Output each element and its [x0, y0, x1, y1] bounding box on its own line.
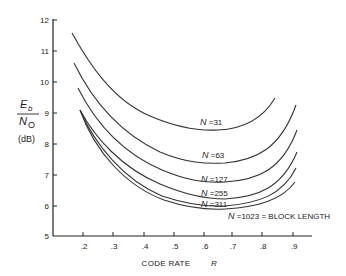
curve-n255	[80, 110, 297, 199]
x-axis-variable: R	[211, 259, 217, 268]
x-tick-labels: .2 .3 .4 .5 .6 .7 .8 .9	[81, 242, 298, 251]
y-title-o: O	[28, 120, 35, 130]
curve-n127	[78, 88, 297, 182]
curves	[72, 33, 297, 209]
curve-n31	[72, 33, 275, 130]
x-tick-label: .8	[260, 242, 267, 251]
x-axis-title: CODE RATE R	[142, 259, 217, 268]
y-tick-label: 9	[45, 109, 50, 118]
y-title-b: b	[28, 104, 33, 113]
x-tick-label: .7	[230, 242, 237, 251]
y-title-e: E	[20, 98, 28, 110]
axes	[53, 19, 312, 236]
y-tick-label: 11	[41, 47, 50, 56]
y-title-n: N	[19, 115, 27, 127]
label-n63: N =63	[202, 150, 225, 160]
label-n31: N =31	[200, 117, 223, 127]
curve-n311	[80, 110, 296, 206]
y-title-unit: (dB)	[18, 134, 35, 144]
y-axis-title: E b N O (dB)	[17, 98, 39, 144]
label-n311: N =311	[201, 199, 228, 209]
x-tick-label: .5	[172, 242, 179, 251]
label-n1023: N =1023 = BLOCK LENGTH	[228, 211, 330, 221]
x-tick-label: .2	[81, 242, 88, 251]
y-tick-label: 10	[40, 78, 49, 87]
x-tick-label: .6	[202, 242, 209, 251]
y-tick-label: 6	[45, 202, 50, 211]
x-axis-title-text: CODE RATE	[142, 259, 191, 268]
y-tick-label: 7	[45, 171, 50, 180]
x-tick-label: .9	[291, 242, 298, 251]
x-tick-label: .3	[111, 242, 118, 251]
curve-labels: N =31 N =63 N =127 N =255 N =311 N =1023…	[200, 117, 330, 221]
y-tick-label: 12	[40, 16, 49, 25]
x-tick-label: .4	[142, 242, 149, 251]
chart: 12 11 10 9 8 7 6 5 .2 .3 .4 .5 .6 .7 .8 …	[0, 0, 346, 276]
label-n255: N =255	[201, 188, 228, 198]
y-tick-label: 8	[45, 140, 50, 149]
y-tick-labels: 12 11 10 9 8 7 6 5	[40, 16, 49, 241]
y-tick-label: 5	[45, 232, 50, 241]
label-n127: N =127	[201, 174, 228, 184]
